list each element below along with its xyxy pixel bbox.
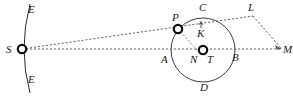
diagram-canvas: E E S P C L K A N T B D M (0, 0, 293, 97)
label-e-bottom: E (28, 74, 35, 85)
label-p: P (172, 12, 179, 23)
label-s: S (6, 44, 12, 55)
point-marker-s (18, 45, 26, 53)
label-a: A (161, 54, 168, 65)
label-c: C (199, 2, 206, 13)
label-n: N (190, 54, 197, 65)
label-t: T (207, 54, 213, 65)
line-s-p-l (22, 16, 253, 49)
label-m: M (283, 44, 292, 55)
label-k: K (197, 28, 204, 39)
point-marker-p (174, 25, 182, 33)
label-d: D (200, 82, 208, 93)
label-b: B (232, 52, 239, 63)
geometry-figure (0, 0, 293, 97)
point-marker-t (199, 46, 207, 54)
line-l-m (253, 16, 281, 48)
label-e-top: E (28, 4, 35, 15)
label-l: L (248, 2, 254, 13)
